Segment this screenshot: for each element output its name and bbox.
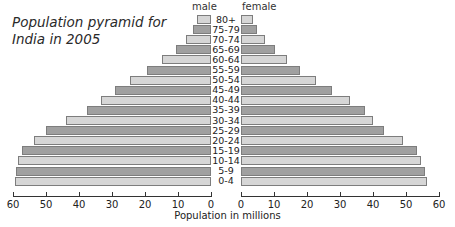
tick-mark [46,192,47,197]
male-tick-label: 20 [135,199,155,210]
tick-mark [79,192,80,197]
age-group-label: 0-4 [211,176,241,186]
female-bar-35-39 [241,106,365,115]
tick-mark [307,192,308,197]
female-bar-5-9 [241,167,425,176]
female-bar-40-44 [241,96,350,105]
female-bar-60-64 [241,55,287,64]
female-bar-80+ [241,15,253,24]
male-bar-35-39 [87,106,211,115]
female-tick-label: 40 [363,199,383,210]
tick-mark [145,192,146,197]
tick-mark [13,192,14,197]
female-bar-25-29 [241,126,384,135]
female-bar-10-14 [241,156,421,165]
male-bar-75-79 [193,25,211,34]
x-axis-label: Population in millions [0,210,455,221]
female-tick-label: 50 [396,199,416,210]
tick-mark [211,192,212,197]
female-bar-20-24 [241,136,403,145]
female-bar-45-49 [241,86,332,95]
tick-mark [178,192,179,197]
female-bar-15-19 [241,146,417,155]
male-bar-5-9 [16,167,211,176]
tick-mark [241,192,242,197]
female-tick-label: 60 [429,199,449,210]
female-tick-label: 30 [330,199,350,210]
male-bar-40-44 [101,96,211,105]
male-bar-15-19 [22,146,211,155]
female-bar-0-4 [241,177,427,186]
male-bar-25-29 [46,126,211,135]
male-tick-label: 30 [102,199,122,210]
male-bar-55-59 [147,66,211,75]
tick-mark [274,192,275,197]
male-bar-50-54 [130,76,211,85]
female-bar-65-69 [241,45,275,54]
male-bar-60-64 [162,55,211,64]
tick-mark [373,192,374,197]
male-bar-70-74 [186,35,211,44]
male-tick-label: 0 [201,199,221,210]
female-tick-label: 0 [231,199,251,210]
female-tick-label: 20 [297,199,317,210]
tick-mark [340,192,341,197]
female-tick-label: 10 [264,199,284,210]
female-bar-55-59 [241,66,300,75]
male-bar-10-14 [18,156,211,165]
tick-mark [439,192,440,197]
population-pyramid: 80+75-7970-7465-6960-6455-5950-5445-4940… [0,0,455,227]
male-tick-label: 10 [168,199,188,210]
female-bar-70-74 [241,35,265,44]
tick-mark [406,192,407,197]
female-bar-30-34 [241,116,373,125]
male-tick-label: 50 [36,199,56,210]
female-bar-50-54 [241,76,316,85]
male-tick-label: 40 [69,199,89,210]
age-group-label: 30-34 [211,116,241,126]
male-tick-label: 60 [3,199,23,210]
male-bar-0-4 [15,177,211,186]
male-bar-20-24 [34,136,211,145]
age-group-label: 80+ [211,15,241,25]
male-bar-30-34 [66,116,211,125]
tick-mark [112,192,113,197]
male-bar-80+ [197,15,211,24]
male-bar-65-69 [176,45,211,54]
male-bar-45-49 [115,86,211,95]
female-bar-75-79 [241,25,257,34]
age-group-label: 35-39 [211,105,241,115]
